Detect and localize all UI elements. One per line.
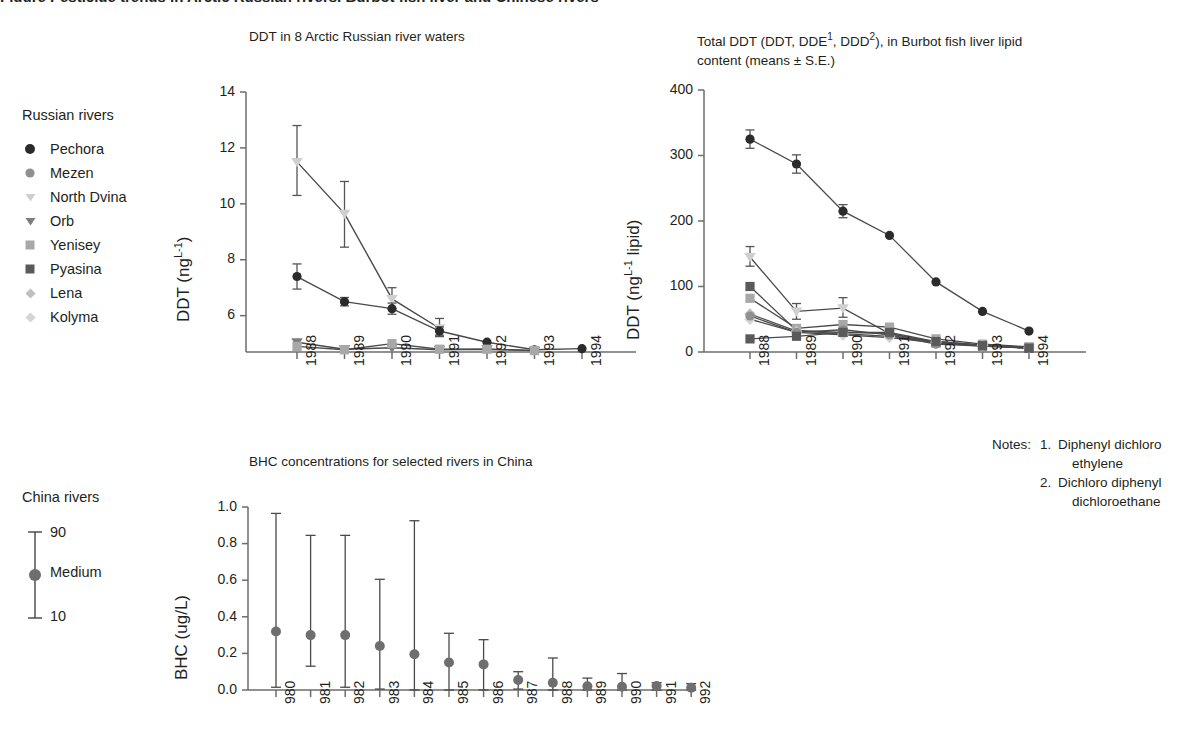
legend-label: Lena (50, 285, 82, 301)
legend-item-orb[interactable]: Orb (22, 209, 127, 233)
xaxis-tick-label: 983 (386, 681, 402, 704)
legend-item-pyasina[interactable]: Pyasina (22, 257, 127, 281)
triangle-down-icon (22, 215, 38, 227)
percentile-range-icon (22, 520, 48, 630)
diamond-icon (22, 311, 38, 324)
triangle-down-icon (22, 191, 38, 203)
panel2-title-line2: content (means ± S.E.) (697, 53, 835, 68)
yaxis-title-tail: ) (174, 236, 193, 242)
legend-item-kolyma[interactable]: Kolyma (22, 305, 127, 329)
legend-label: Pyasina (50, 261, 102, 277)
panel1-legend: Russian rivers (22, 107, 114, 123)
panel2-title-part1: Total DDT (DDT, DDE (697, 34, 827, 49)
note-2-text: Dichloro diphenyl dichloroethane (1058, 473, 1162, 511)
xaxis-tick-label: 980 (282, 681, 298, 704)
xaxis-tick-label: 1988 (756, 335, 772, 366)
xaxis-tick-label: 990 (628, 681, 644, 704)
legend-item-north-dvina[interactable]: North Dvina (22, 185, 127, 209)
xaxis-tick-label: 1993 (541, 335, 557, 366)
legend-item-mezen[interactable]: Mezen (22, 161, 127, 185)
legend-label: Orb (50, 213, 74, 229)
xaxis-tick-label: 985 (455, 681, 471, 704)
xaxis-tick-label: 989 (593, 681, 609, 704)
xaxis-tick-label: 1994 (588, 335, 604, 366)
legend-label-medium: Medium (50, 564, 102, 580)
xaxis-tick-label: 1992 (493, 335, 509, 366)
panel2-title: Total DDT (DDT, DDE1, DDD2), in Burbot f… (697, 27, 1057, 70)
yaxis-title-tail: lipid) (624, 220, 643, 261)
panel1-legend-items: Pechora Mezen North Dvina Orb Yenisey Py… (22, 137, 127, 329)
notes-block: Notes: 1. Diphenyl dichloro ethylene 2. … (992, 435, 1181, 511)
yaxis-title-sup: L-1 (172, 242, 184, 258)
xaxis-tick-label: 991 (663, 681, 679, 704)
legend-label: Pechora (50, 141, 104, 157)
xaxis-tick-label: 1990 (398, 335, 414, 366)
xaxis-tick-label: 1989 (351, 335, 367, 366)
legend-label: Yenisey (50, 237, 100, 253)
xaxis-tick-label: 1991 (896, 335, 912, 366)
note-1-text: Diphenyl dichloro ethylene (1058, 435, 1162, 473)
panel1-title: DDT in 8 Arctic Russian river waters (249, 27, 465, 46)
page-top-title-text: Figure Pesticide trends in Arctic Russia… (0, 0, 599, 2)
legend-label-p10: 10 (50, 608, 66, 624)
xaxis-tick-label: 992 (697, 681, 713, 704)
xaxis-tick-label: 984 (420, 681, 436, 704)
xaxis-tick-label: 981 (317, 681, 333, 704)
yaxis-title-text: DDT (ng (624, 276, 643, 340)
panel2-xaxis-labels: 1988198919901991199219931994 (646, 80, 1096, 380)
diamond-icon (22, 287, 38, 300)
xaxis-tick-label: 1989 (803, 335, 819, 366)
xaxis-tick-label: 987 (524, 681, 540, 704)
panel2-title-part2: , DDD (833, 34, 870, 49)
panel3-title: BHC concentrations for selected rivers i… (249, 452, 533, 471)
panel1-xaxis-labels: 1988198919901991199219931994 (196, 80, 646, 380)
legend-item-yenisey[interactable]: Yenisey (22, 233, 127, 257)
panel3-xaxis-labels: 980981982983984985986987988989990991992 (196, 495, 756, 748)
xaxis-tick-label: 986 (490, 681, 506, 704)
xaxis-tick-label: 988 (559, 681, 575, 704)
panel1-legend-title: Russian rivers (22, 107, 114, 123)
yaxis-title-text: BHC (ug/L) (172, 595, 192, 680)
yaxis-title-text: DDT (ng (174, 258, 193, 322)
legend-label: Mezen (50, 165, 94, 181)
xaxis-tick-label: 1993 (989, 335, 1005, 366)
legend-label: North Dvina (50, 189, 127, 205)
xaxis-tick-label: 1991 (446, 335, 462, 366)
legend-item-pechora[interactable]: Pechora (22, 137, 127, 161)
xaxis-tick-label: 1988 (303, 335, 319, 366)
square-icon (22, 263, 38, 275)
page-top-title-cropped: Figure Pesticide trends in Arctic Russia… (0, 0, 1181, 2)
square-icon (22, 239, 38, 251)
circle-icon (22, 143, 38, 155)
note-1-number: 1. (1040, 435, 1058, 473)
notes-label: Notes: (992, 435, 1040, 511)
legend-label: Kolyma (50, 309, 98, 325)
legend-item-lena[interactable]: Lena (22, 281, 127, 305)
note-2-number: 2. (1040, 473, 1058, 511)
panel3-legend-title: China rivers (22, 489, 99, 505)
panel3-legend: 90 Medium 10 (22, 520, 142, 630)
xaxis-tick-label: 1994 (1035, 335, 1051, 366)
xaxis-tick-label: 1990 (849, 335, 865, 366)
xaxis-tick-label: 1992 (942, 335, 958, 366)
xaxis-tick-label: 982 (351, 681, 367, 704)
legend-label-p90: 90 (50, 524, 66, 540)
circle-icon (22, 167, 38, 179)
panel2-title-part3: ), in Burbot fish liver lipid (875, 34, 1022, 49)
yaxis-title-sup: L-1 (622, 260, 634, 276)
